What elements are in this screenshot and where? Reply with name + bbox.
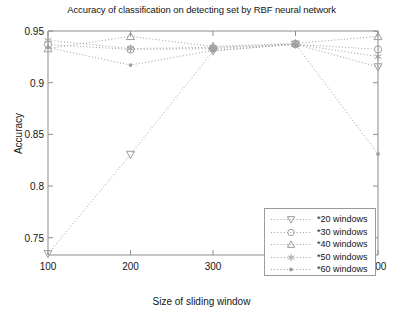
legend-item-4[interactable]: *50 windows [265,251,377,264]
series-line [48,44,378,154]
legend-item-3[interactable]: *40 windows [265,238,377,251]
legend-marker-triangle-down-icon [269,213,313,226]
dot-marker [289,268,293,272]
asterisk-marker [375,53,382,61]
series-4 [45,36,382,60]
dot-marker [294,42,298,46]
data-point-dot [294,42,298,46]
data-point-dot [211,49,215,53]
legend-item-2[interactable]: *30 windows [265,226,377,239]
chart-figure: Accuracy of classification on detecting … [0,0,403,317]
asterisk-marker [288,254,294,261]
chart-legend: *20 windows*30 windows*40 windows*50 win… [264,208,376,276]
legend-label: *40 windows [317,239,368,249]
data-point-asterisk [45,36,52,44]
series-5 [46,42,380,156]
legend-item-1[interactable]: *20 windows [265,213,377,226]
dot-marker [211,49,215,53]
data-point-asterisk [375,53,382,61]
dot-marker [46,46,50,50]
data-point-dot [129,63,133,67]
asterisk-marker [45,36,52,44]
legend-label: *20 windows [317,214,368,224]
data-point-dot [289,268,293,272]
data-point-dot [376,152,380,156]
legend-marker-circle-icon [269,226,313,239]
data-point-asterisk [288,254,294,261]
legend-label: *60 windows [317,264,368,274]
data-point-dot [46,46,50,50]
dot-marker [129,63,133,67]
legend-label: *30 windows [317,227,368,237]
legend-label: *50 windows [317,252,368,262]
legend-marker-asterisk-icon [269,251,313,264]
legend-marker-dot-icon [269,263,313,276]
legend-marker-triangle-up-icon [269,238,313,251]
dot-marker [376,152,380,156]
legend-item-5[interactable]: *60 windows [265,263,377,276]
